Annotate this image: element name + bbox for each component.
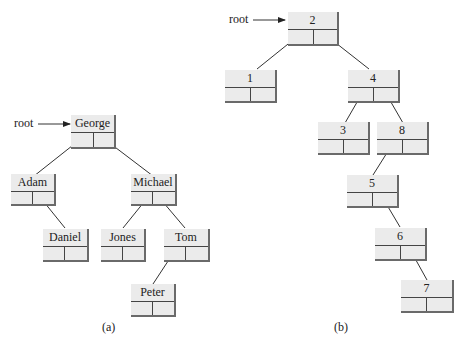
tree-node-1: 1 bbox=[225, 70, 277, 103]
tree-node-8: 8 bbox=[377, 122, 429, 155]
node-value: Adam bbox=[11, 174, 54, 190]
tree-node-5: 5 bbox=[347, 175, 399, 208]
node-divider bbox=[131, 191, 175, 192]
tree-node-george: George bbox=[71, 115, 116, 149]
node-value: George bbox=[71, 115, 114, 131]
node-pointer-divider bbox=[152, 191, 153, 204]
node-pointer-divider bbox=[250, 87, 251, 101]
node-pointer-divider bbox=[152, 301, 153, 315]
tree-edges bbox=[0, 0, 466, 348]
node-pointer-divider bbox=[64, 246, 65, 260]
node-value: 1 bbox=[225, 70, 275, 86]
node-value: 6 bbox=[375, 228, 425, 244]
tree-node-michael: Michael bbox=[131, 174, 177, 206]
node-value: 3 bbox=[318, 122, 368, 138]
node-value: Michael bbox=[131, 174, 175, 190]
tree-node-3: 3 bbox=[318, 122, 370, 155]
binary-tree-figure: root George Adam Michael Daniel Jones To… bbox=[0, 0, 466, 348]
node-pointer-divider bbox=[185, 246, 186, 260]
caption-b: (b) bbox=[334, 320, 348, 335]
node-divider bbox=[164, 246, 208, 247]
root-label-b: root bbox=[229, 12, 248, 27]
node-pointer-divider bbox=[313, 29, 314, 44]
tree-node-2: 2 bbox=[288, 12, 339, 46]
node-pointer-divider bbox=[372, 192, 373, 206]
node-value: 8 bbox=[377, 122, 427, 138]
tree-node-daniel: Daniel bbox=[43, 229, 89, 262]
node-pointer-divider bbox=[93, 132, 94, 147]
node-value: Jones bbox=[101, 229, 144, 245]
node-pointer-divider bbox=[373, 87, 374, 101]
tree-node-6: 6 bbox=[375, 228, 427, 261]
node-value: 7 bbox=[401, 280, 452, 296]
node-value: 5 bbox=[347, 175, 397, 191]
node-pointer-divider bbox=[402, 139, 403, 153]
tree-node-tom: Tom bbox=[164, 229, 210, 262]
node-pointer-divider bbox=[32, 191, 33, 204]
node-value: Daniel bbox=[43, 229, 87, 245]
node-pointer-divider bbox=[343, 139, 344, 153]
caption-a: (a) bbox=[102, 320, 115, 335]
tree-node-adam: Adam bbox=[11, 174, 56, 206]
node-pointer-divider bbox=[122, 246, 123, 260]
node-pointer-divider bbox=[400, 245, 401, 259]
tree-node-peter: Peter bbox=[131, 284, 176, 317]
tree-node-jones: Jones bbox=[101, 229, 146, 262]
root-label-a: root bbox=[14, 116, 33, 131]
node-value: Peter bbox=[131, 284, 174, 300]
node-pointer-divider bbox=[426, 297, 427, 311]
node-value: Tom bbox=[164, 229, 208, 245]
tree-node-4: 4 bbox=[348, 70, 400, 103]
node-divider bbox=[43, 246, 87, 247]
node-value: 2 bbox=[288, 12, 337, 28]
tree-node-7: 7 bbox=[401, 280, 454, 313]
node-value: 4 bbox=[348, 70, 398, 86]
